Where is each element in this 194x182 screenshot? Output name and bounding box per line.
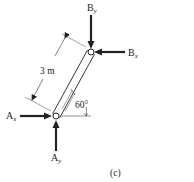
force-by-label: By	[87, 2, 98, 15]
force-ax-label: Ax	[6, 110, 17, 123]
length-label: 3 m	[40, 66, 55, 76]
pin-a-icon	[53, 113, 59, 119]
force-ay-label: Ay	[51, 152, 62, 165]
force-bx-arrow	[94, 49, 125, 56]
force-ax-arrow	[20, 113, 52, 120]
free-body-diagram: 3 m 60° By Bx Ax	[0, 0, 194, 182]
force-by-arrow	[88, 15, 95, 49]
angle-label: 60°	[75, 100, 89, 110]
diagram-svg: 3 m 60° By Bx Ax	[0, 0, 194, 182]
force-bx-label: Bx	[128, 47, 139, 60]
pin-b-icon	[88, 49, 94, 55]
force-ay-arrow	[53, 120, 60, 151]
figure-caption: (c)	[110, 168, 121, 179]
